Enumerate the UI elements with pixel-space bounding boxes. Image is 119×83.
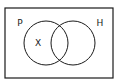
set-h-circle — [51, 21, 95, 65]
element-x-label: X — [35, 38, 41, 48]
set-p-label: P — [17, 18, 23, 28]
venn-diagram: P H X — [0, 0, 119, 83]
set-h-label: H — [97, 18, 104, 28]
set-p-circle — [24, 21, 68, 65]
